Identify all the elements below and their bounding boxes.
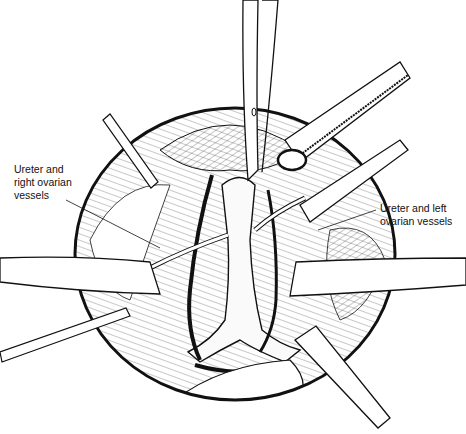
label-line: Ureter and — [14, 163, 104, 176]
retractor-right — [290, 258, 466, 296]
label-ureter-left-ovarian-vessels: Ureter and left ovarian vessels — [380, 202, 466, 228]
retractor-left — [0, 257, 160, 294]
label-line: Ureter and left — [380, 202, 466, 215]
label-line: ovarian vessels — [380, 215, 466, 228]
label-line: vessels — [14, 189, 104, 202]
label-line: right ovarian — [14, 176, 104, 189]
label-ureter-right-ovarian-vessels: Ureter and right ovarian vessels — [14, 163, 104, 202]
